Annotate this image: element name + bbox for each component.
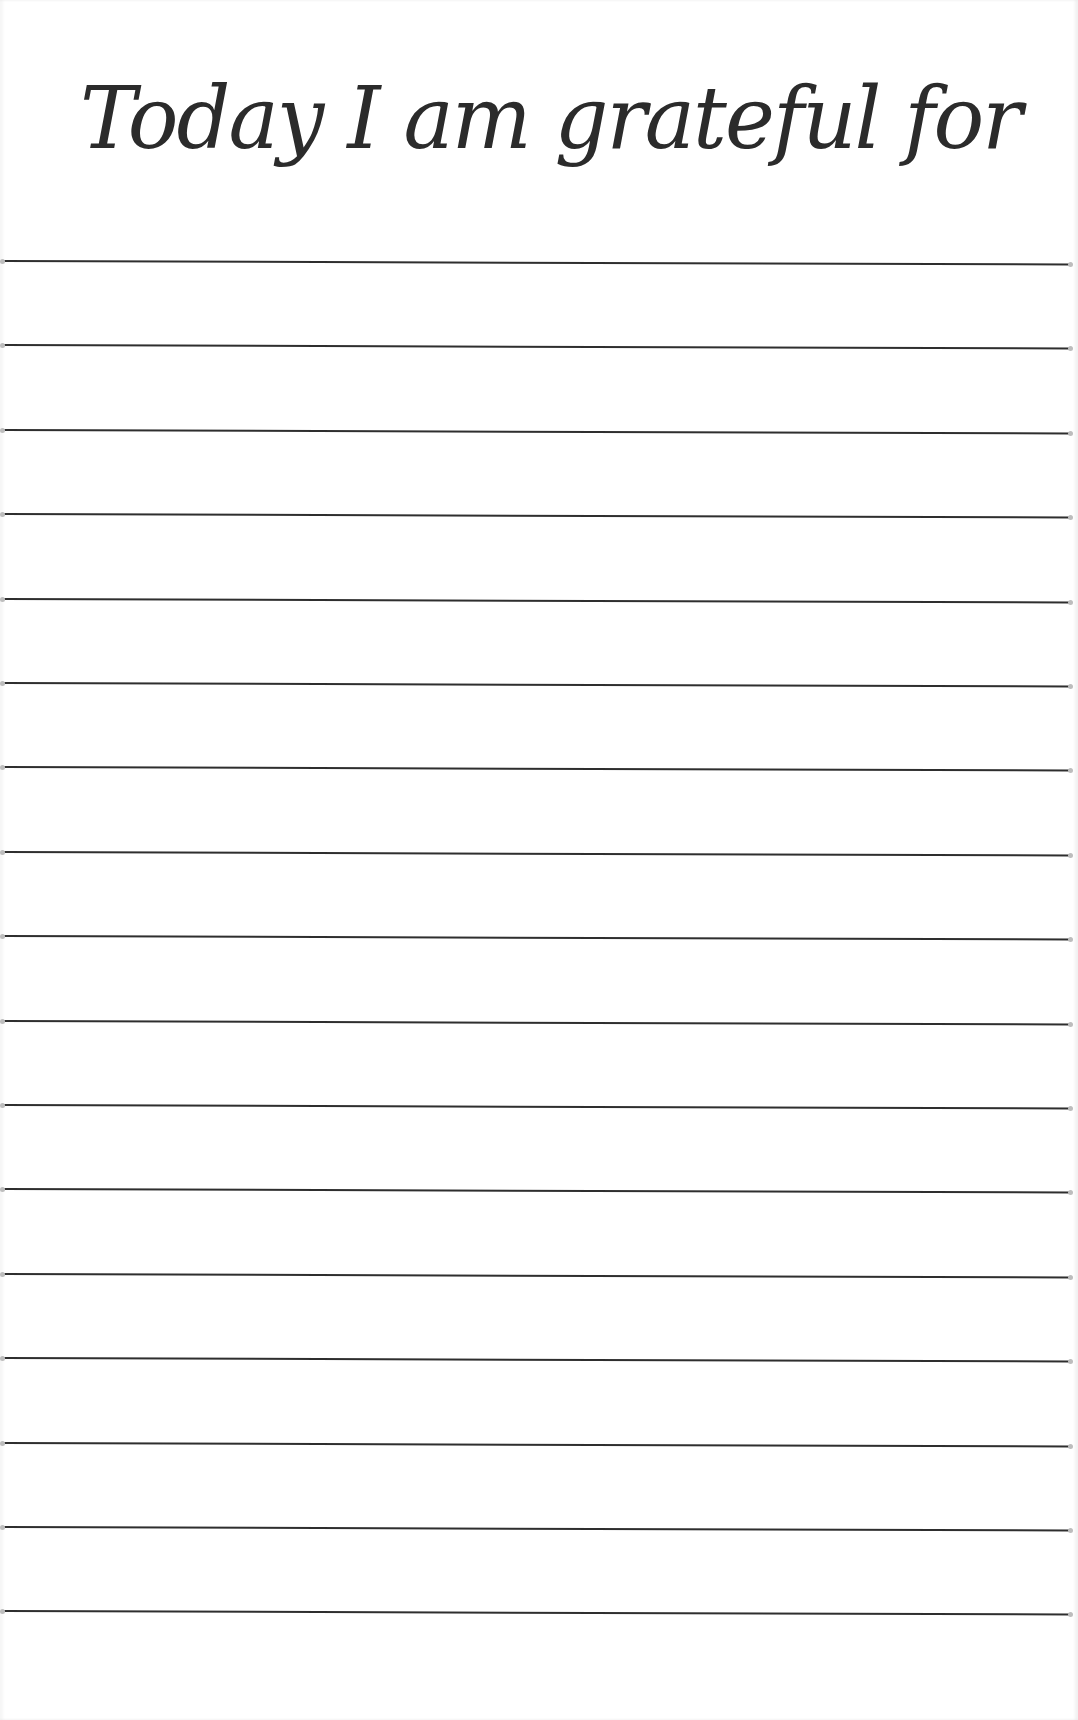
gratitude-entry-input[interactable]: [14, 1460, 1060, 1522]
writing-line[interactable]: [4, 600, 1070, 684]
gratitude-entry-input[interactable]: [14, 1038, 1060, 1100]
gratitude-entry-input[interactable]: [14, 447, 1060, 509]
writing-line[interactable]: [4, 516, 1070, 600]
writing-line[interactable]: [4, 853, 1070, 937]
writing-line[interactable]: [4, 262, 1070, 346]
gratitude-entry-input[interactable]: [14, 869, 1060, 931]
notepad-page: Today I am grateful for: [0, 0, 1078, 1720]
writing-line[interactable]: [4, 1444, 1070, 1528]
gratitude-entry-input[interactable]: [14, 1291, 1060, 1353]
writing-line[interactable]: [4, 178, 1070, 262]
writing-line[interactable]: [4, 1106, 1070, 1190]
writing-lines: [0, 0, 1078, 1720]
writing-line[interactable]: [4, 769, 1070, 853]
gratitude-entry-input[interactable]: [14, 194, 1060, 256]
writing-line[interactable]: [4, 1360, 1070, 1444]
writing-line[interactable]: [4, 684, 1070, 768]
gratitude-entry-input[interactable]: [14, 1122, 1060, 1184]
writing-line[interactable]: [4, 1275, 1070, 1359]
gratitude-entry-input[interactable]: [14, 532, 1060, 594]
writing-line[interactable]: [4, 938, 1070, 1022]
gratitude-entry-input[interactable]: [14, 1376, 1060, 1438]
gratitude-entry-input[interactable]: [14, 278, 1060, 340]
writing-line[interactable]: [4, 1191, 1070, 1275]
line-end-dot: [1068, 1612, 1073, 1617]
gratitude-entry-input[interactable]: [14, 616, 1060, 678]
writing-line[interactable]: [4, 347, 1070, 431]
gratitude-entry-input[interactable]: [14, 954, 1060, 1016]
writing-line[interactable]: [4, 1022, 1070, 1106]
writing-line[interactable]: [4, 431, 1070, 515]
line-end-dot: [0, 1609, 5, 1614]
gratitude-entry-input[interactable]: [14, 1544, 1060, 1606]
ruled-line: [4, 1610, 1070, 1616]
gratitude-entry-input[interactable]: [14, 1207, 1060, 1269]
gratitude-entry-input[interactable]: [14, 363, 1060, 425]
gratitude-entry-input[interactable]: [14, 785, 1060, 847]
gratitude-entry-input[interactable]: [14, 700, 1060, 762]
writing-line[interactable]: [4, 1528, 1070, 1612]
